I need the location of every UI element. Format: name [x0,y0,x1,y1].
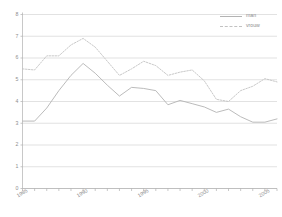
gridlines [23,15,278,189]
line-chart: 012345678 19851990199520002005 man vrouw [0,0,282,217]
chart-canvas [0,0,282,217]
series-line-vrouw [23,38,278,101]
legend-label-vrouw: vrouw [246,23,260,28]
chart-legend: man vrouw [202,11,278,31]
axis-lines [23,13,278,189]
x-axis-ticks [23,189,278,192]
legend-line-sample-solid [220,16,242,17]
series-lines [23,38,278,122]
legend-item-man: man [202,11,278,21]
legend-label-man: man [246,13,256,18]
legend-item-vrouw: vrouw [202,21,278,31]
legend-line-sample-dashed [220,26,242,27]
